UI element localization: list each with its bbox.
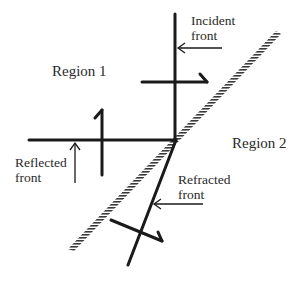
diagram-canvas: Region 1 Region 2 Incident front Reflect… [0,0,300,282]
incident-label-line1: Incident [191,13,235,28]
incident-pointer-arrow [178,43,222,53]
refracted-ray [111,140,176,265]
wavefront-diagram: Region 1 Region 2 Incident front Reflect… [0,0,300,282]
region-1-label: Region 1 [52,63,107,79]
incident-label-line2: front [191,28,217,43]
region-2-label: Region 2 [232,135,287,151]
reflected-label-line2: front [15,170,41,185]
refracted-label-line2: front [178,187,204,202]
reflected-label-line1: Reflected [15,155,67,170]
reflected-pointer-arrow [70,143,80,183]
refracted-label-line1: Refracted [178,172,231,187]
